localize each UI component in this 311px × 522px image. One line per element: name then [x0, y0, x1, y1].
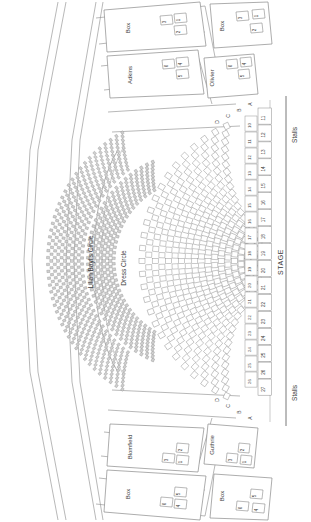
seat[interactable] [55, 283, 58, 286]
seat[interactable] [175, 231, 182, 237]
seat[interactable] [82, 238, 85, 241]
seat[interactable] [70, 288, 73, 291]
seat[interactable] [218, 266, 225, 272]
seat[interactable] [232, 244, 239, 250]
seat[interactable] [179, 268, 185, 274]
seat[interactable] [54, 226, 57, 229]
seat[interactable] [154, 234, 161, 240]
seat[interactable] [61, 276, 64, 279]
seat[interactable] [58, 240, 61, 243]
seat[interactable] [51, 222, 55, 225]
seat[interactable] [166, 269, 172, 275]
seat[interactable] [81, 263, 84, 265]
seat[interactable] [57, 273, 60, 276]
seat[interactable] [104, 277, 108, 280]
seat[interactable] [47, 277, 50, 280]
seat[interactable] [50, 229, 53, 232]
seat[interactable] [73, 234, 76, 237]
seat[interactable] [67, 269, 70, 272]
box-top-left[interactable]: Box 1 2 3 [104, 2, 206, 52]
seat[interactable] [94, 275, 98, 278]
seat[interactable] [74, 269, 77, 272]
seat[interactable] [180, 279, 187, 285]
box-bottom-left[interactable]: Box 4 5 6 [104, 470, 206, 520]
seat[interactable] [218, 258, 224, 263]
seat[interactable] [64, 253, 67, 256]
seat[interactable] [51, 297, 55, 300]
seat[interactable] [173, 274, 180, 280]
seat[interactable] [172, 264, 178, 269]
seat[interactable] [104, 242, 108, 245]
seat[interactable] [188, 282, 195, 288]
seat[interactable] [103, 265, 106, 268]
seat[interactable] [109, 248, 113, 251]
seat[interactable] [62, 282, 65, 285]
seat[interactable] [147, 277, 154, 283]
seat[interactable] [225, 255, 231, 261]
seat[interactable] [112, 262, 115, 265]
seat[interactable] [109, 265, 112, 268]
seat[interactable] [74, 257, 77, 259]
seat[interactable] [83, 232, 86, 235]
seat[interactable] [106, 268, 109, 271]
seat[interactable] [113, 246, 117, 249]
seat[interactable] [167, 236, 174, 242]
seat[interactable] [75, 275, 78, 278]
seat[interactable] [47, 263, 50, 265]
seat[interactable] [96, 260, 99, 263]
seat[interactable] [159, 252, 165, 257]
seat[interactable] [238, 261, 244, 267]
seat[interactable] [70, 260, 73, 262]
seat[interactable] [64, 273, 67, 276]
seat[interactable] [173, 242, 180, 248]
seat[interactable] [97, 272, 100, 275]
seat[interactable] [112, 257, 115, 260]
seat[interactable] [74, 228, 78, 231]
seat[interactable] [219, 243, 226, 249]
seat[interactable] [74, 250, 77, 253]
seat[interactable] [50, 253, 53, 256]
seat[interactable] [82, 281, 85, 284]
seat[interactable] [225, 262, 231, 268]
seat[interactable] [232, 251, 239, 257]
seat[interactable] [97, 241, 101, 244]
seat[interactable] [75, 281, 78, 284]
seat[interactable] [160, 241, 167, 247]
seat[interactable] [146, 265, 152, 270]
seat[interactable] [106, 251, 109, 254]
seat[interactable] [212, 254, 218, 260]
seat[interactable] [71, 272, 74, 275]
seat[interactable] [103, 271, 107, 274]
seat[interactable] [68, 276, 71, 279]
seat[interactable] [75, 244, 78, 247]
seat[interactable] [102, 260, 105, 263]
seat[interactable] [225, 247, 232, 253]
seat[interactable] [205, 258, 211, 263]
seat[interactable] [60, 256, 63, 258]
seat[interactable] [70, 266, 73, 269]
seat[interactable] [212, 270, 219, 276]
seat[interactable] [179, 248, 185, 254]
seat[interactable] [186, 273, 193, 279]
seat[interactable] [139, 245, 145, 251]
seat[interactable] [72, 241, 75, 244]
seat[interactable] [154, 282, 161, 288]
seat[interactable] [141, 232, 148, 238]
seat[interactable] [47, 242, 50, 245]
box-adkins[interactable]: Adkins 4 5 6 [107, 50, 204, 98]
seat[interactable] [205, 267, 212, 273]
seat[interactable] [218, 250, 225, 256]
seat[interactable] [60, 263, 63, 265]
seat[interactable] [47, 256, 50, 258]
seat[interactable] [50, 246, 53, 249]
seat[interactable] [100, 245, 104, 248]
seat[interactable] [162, 229, 169, 235]
seat[interactable] [192, 249, 198, 255]
seat[interactable] [180, 237, 187, 243]
seat[interactable] [110, 243, 114, 246]
seat[interactable] [212, 262, 218, 268]
seat[interactable] [100, 269, 103, 272]
seat[interactable] [167, 280, 174, 286]
seat[interactable] [54, 293, 57, 296]
seat[interactable] [81, 251, 84, 254]
